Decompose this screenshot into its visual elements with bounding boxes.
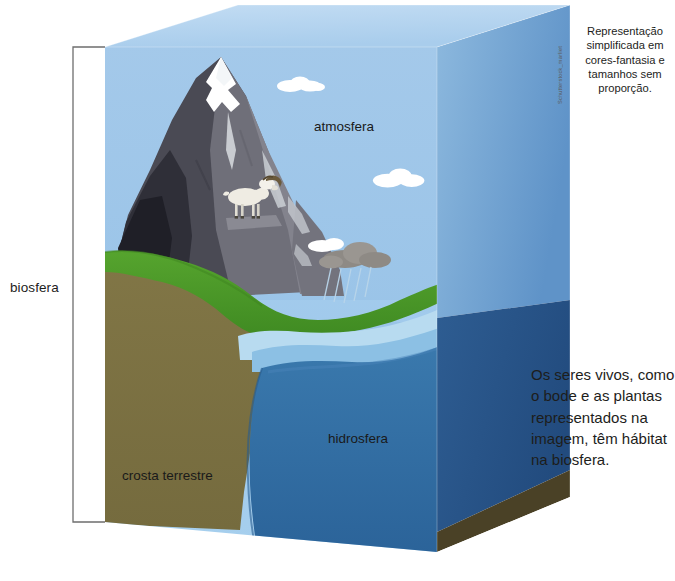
figure-caption: Representação simplificada em cores-fant… xyxy=(578,24,672,96)
water-body xyxy=(249,344,445,556)
figure-stage: atmosfera hidrosfera crosta terrestre bi… xyxy=(0,0,675,581)
label-atmosfera: atmosfera xyxy=(314,119,375,134)
biosphere-cube-diagram: atmosfera hidrosfera crosta terrestre xyxy=(0,0,675,581)
image-credit: Schutterstock_marliet xyxy=(557,90,647,104)
label-hidrosfera: hidrosfera xyxy=(328,431,389,446)
label-biosfera: biosfera xyxy=(10,280,59,295)
biosfera-bracket xyxy=(73,47,105,522)
label-crosta-terrestre: crosta terrestre xyxy=(122,468,213,483)
figure-side-note: Os seres vivos, como o bode e as plantas… xyxy=(531,364,675,470)
